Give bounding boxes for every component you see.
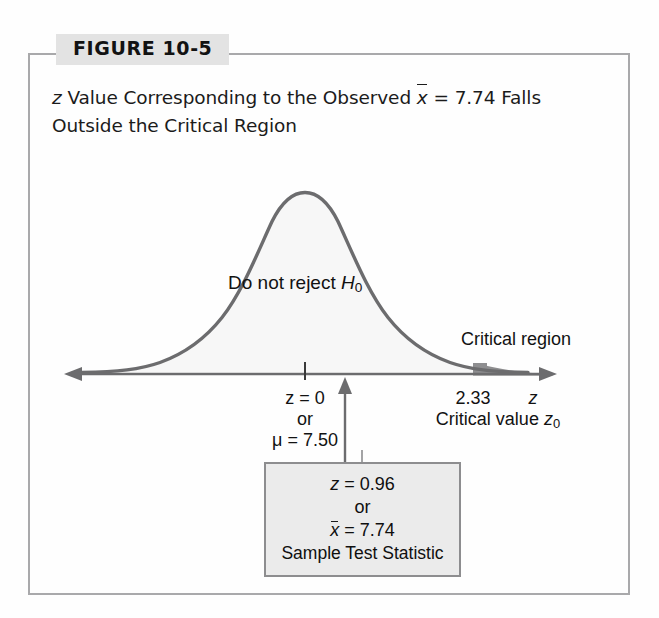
critical-value-subscript: 0 — [553, 416, 560, 431]
stat-line-or: or — [354, 497, 370, 519]
stat-xbar-symbol: x — [330, 520, 339, 542]
axis-name-label: z — [516, 388, 550, 409]
stat-z-symbol: z — [330, 474, 339, 494]
figure-number-tag: FIGURE 10-5 — [56, 34, 229, 65]
sample-test-statistic-box: z = 0.96 or x = 7.74 Sample Test Statist… — [264, 462, 461, 577]
stat-line-z: z = 0.96 — [330, 474, 395, 496]
axis-label-mu: μ = 7.50 — [250, 430, 360, 451]
critical-value-text: Critical value — [436, 409, 544, 429]
figure-container: FIGURE 10-5 z Value Corresponding to the… — [0, 0, 659, 618]
stat-line-title: Sample Test Statistic — [281, 543, 443, 564]
critical-value-label: Critical value z0 — [398, 409, 598, 431]
h-subscript: 0 — [355, 280, 363, 295]
stat-line-xbar: x = 7.74 — [330, 520, 395, 542]
caption-line-2: Outside the Critical Region — [52, 115, 297, 136]
do-not-reject-text: Do not reject — [228, 272, 341, 293]
h-symbol: H — [341, 272, 355, 293]
caption-z-symbol: z — [52, 87, 62, 108]
figure-caption: z Value Corresponding to the Observed x … — [52, 84, 582, 140]
axis-label-critical-tick: 2.33 — [425, 388, 521, 409]
axis-label-z-zero: z = 0 — [250, 388, 360, 409]
critical-region-label: Critical region — [461, 329, 571, 350]
do-not-reject-label: Do not reject H0 — [228, 272, 362, 295]
critical-value-z-symbol: z — [544, 409, 553, 429]
stat-xbar-value: = 7.74 — [339, 520, 395, 540]
caption-text-post: = 7.74 Falls — [428, 87, 541, 108]
stat-z-value: = 0.96 — [339, 474, 395, 494]
caption-xbar-symbol: x — [417, 84, 428, 112]
axis-label-or: or — [250, 409, 360, 430]
caption-text-mid: Value Corresponding to the Observed — [62, 87, 417, 108]
